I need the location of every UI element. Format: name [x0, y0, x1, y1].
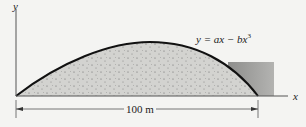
- equation-exponent: 3: [248, 32, 252, 40]
- dimension-arrow-left: [16, 107, 23, 111]
- dimension-arrow-right: [251, 107, 258, 111]
- y-axis-label: y: [13, 0, 18, 12]
- region-under-curve: [16, 42, 258, 96]
- curve-equation: y = ax − bx3: [196, 32, 251, 45]
- dimension-label: 100 m: [124, 103, 156, 115]
- x-axis-label: x: [293, 90, 298, 102]
- equation-text: y = ax − bx: [196, 33, 248, 45]
